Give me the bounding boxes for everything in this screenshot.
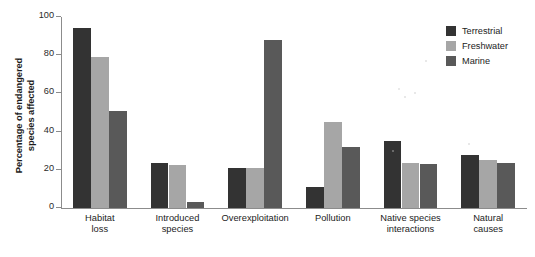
y-tick-mark [56, 207, 61, 208]
y-tick-label: 80 [44, 48, 54, 58]
scan-artifact [392, 150, 394, 152]
legend-label: Marine [462, 56, 490, 66]
bar-group [306, 17, 360, 208]
x-axis-label: Natural causes [443, 213, 533, 236]
y-tick-mark [56, 131, 61, 132]
legend-label: Terrestrial [462, 26, 502, 36]
x-axis-line [61, 208, 527, 209]
y-tick-mark [56, 54, 61, 55]
bar [169, 165, 187, 208]
scan-artifact [404, 96, 406, 98]
bar [264, 40, 282, 208]
legend-item: Marine [446, 56, 508, 66]
legend-item: Terrestrial [446, 26, 508, 36]
bar [228, 168, 246, 208]
bar [420, 164, 438, 208]
x-axis-label: Pollution [288, 213, 378, 224]
bar [109, 111, 127, 208]
x-axis-label: Introduced species [133, 213, 223, 236]
bar-group [151, 17, 205, 208]
scan-artifact [398, 88, 400, 90]
y-tick-label: 40 [44, 125, 54, 135]
bar-group [73, 17, 127, 208]
y-tick-label: 60 [44, 86, 54, 96]
bar [342, 147, 360, 208]
bar [246, 168, 264, 208]
y-tick: 80 [61, 54, 62, 55]
bar-chart: Percentage of endangered species affecte… [0, 0, 535, 257]
scan-artifact [414, 92, 416, 94]
bar-group [228, 17, 282, 208]
scan-artifact [425, 60, 427, 62]
y-tick-mark [56, 16, 61, 17]
bar [306, 187, 324, 208]
legend-swatch-icon [446, 56, 456, 66]
y-tick-label: 20 [44, 163, 54, 173]
y-tick: 100 [61, 16, 62, 17]
legend-swatch-icon [446, 26, 456, 36]
x-axis-label: Habitat loss [55, 213, 145, 236]
y-tick: 60 [61, 92, 62, 93]
bar [497, 163, 515, 208]
y-axis-line [61, 17, 62, 209]
x-axis-label: Native species interactions [366, 213, 456, 236]
bar [461, 155, 479, 208]
y-tick-label: 0 [49, 201, 54, 211]
y-tick: 40 [61, 131, 62, 132]
y-tick-mark [56, 169, 61, 170]
y-tick: 20 [61, 169, 62, 170]
y-tick-mark [56, 92, 61, 93]
legend-swatch-icon [446, 41, 456, 51]
bar [73, 28, 91, 208]
bar [187, 202, 205, 208]
legend-label: Freshwater [462, 41, 508, 51]
y-tick-label: 100 [39, 10, 54, 20]
legend: TerrestrialFreshwaterMarine [446, 26, 508, 66]
bar [402, 163, 420, 208]
scan-artifact [468, 143, 470, 145]
bar [324, 122, 342, 208]
bar [479, 160, 497, 208]
bar [91, 57, 109, 208]
bar-group [384, 17, 438, 208]
bar [151, 163, 169, 208]
y-axis-title: Percentage of endangered species affecte… [13, 16, 36, 216]
y-tick: 0 [61, 207, 62, 208]
x-axis-label: Overexploitation [210, 213, 300, 224]
legend-item: Freshwater [446, 41, 508, 51]
